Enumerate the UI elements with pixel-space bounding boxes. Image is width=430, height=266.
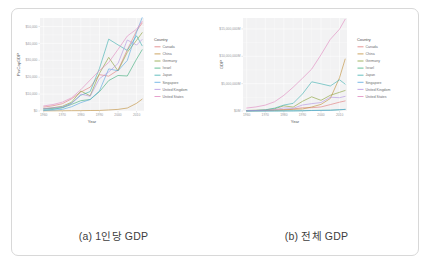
subfigure-a: $0$10,000$20,000$30,000$40,000$50,000196… — [12, 9, 215, 255]
y-axis-title: GDP — [219, 60, 224, 69]
chart-b-canvas: $0M$5,000,000M$10,000,000M$15,000,000M19… — [215, 13, 419, 131]
legend-label: Germany — [163, 59, 178, 63]
legend-label: Singapore — [366, 81, 382, 85]
legend-label: Germany — [366, 59, 381, 63]
legend-title: Country — [154, 37, 168, 42]
y-tick-label: $10,000 — [25, 92, 37, 96]
x-axis-title: Year — [291, 119, 300, 124]
legend-label: China — [366, 52, 375, 56]
x-tick-label: 1990 — [96, 113, 104, 117]
legend-label: United States — [163, 95, 184, 99]
x-tick-label: 1980 — [77, 113, 85, 117]
y-tick-label: $15,000,000M — [219, 27, 240, 31]
y-tick-label: $0M — [234, 109, 241, 113]
y-tick-label: $5,000,000M — [221, 82, 241, 86]
legend-label: Japan — [163, 73, 173, 77]
chart-a-canvas: $0$10,000$20,000$30,000$40,000$50,000196… — [12, 13, 216, 131]
x-axis-title: Year — [88, 119, 97, 124]
y-axis-title: PerCapGDP — [16, 53, 21, 76]
y-tick-label: $20,000 — [25, 75, 37, 79]
x-tick-label: 2010 — [133, 113, 141, 117]
legend-label: Israel — [163, 66, 172, 70]
legend-label: Canada — [163, 45, 175, 49]
caption-a: (a) 1인당 GDP — [12, 228, 215, 243]
figure-row: $0$10,000$20,000$30,000$40,000$50,000196… — [12, 9, 418, 255]
legend-title: Country — [357, 37, 371, 42]
legend-label: Japan — [366, 73, 376, 77]
legend-label: Israel — [366, 66, 375, 70]
x-tick-label: 1960 — [243, 113, 251, 117]
x-tick-label: 2000 — [317, 113, 325, 117]
chart-b: $0M$5,000,000M$10,000,000M$15,000,000M19… — [215, 13, 418, 231]
x-tick-label: 1980 — [280, 113, 288, 117]
x-tick-label: 2000 — [114, 113, 122, 117]
chart-a: $0$10,000$20,000$30,000$40,000$50,000196… — [12, 13, 215, 231]
y-tick-label: $50,000 — [25, 25, 37, 29]
y-tick-label: $0 — [34, 109, 38, 113]
x-tick-label: 1960 — [40, 113, 48, 117]
x-tick-label: 1990 — [299, 113, 307, 117]
y-tick-label: $30,000 — [25, 58, 37, 62]
plot-panel-a — [40, 18, 144, 111]
figure-page: $0$10,000$20,000$30,000$40,000$50,000196… — [0, 0, 430, 266]
y-tick-label: $10,000,000M — [219, 54, 240, 58]
legend-label: United Kingdom — [366, 88, 391, 92]
legend-label: China — [163, 52, 172, 56]
figure-frame: $0$10,000$20,000$30,000$40,000$50,000196… — [11, 8, 419, 256]
y-tick-label: $40,000 — [25, 42, 37, 46]
x-tick-label: 1970 — [59, 113, 67, 117]
x-tick-label: 2010 — [336, 113, 344, 117]
subfigure-b: $0M$5,000,000M$10,000,000M$15,000,000M19… — [215, 9, 418, 255]
x-tick-label: 1970 — [262, 113, 270, 117]
legend-label: United Kingdom — [163, 88, 188, 92]
legend-label: Singapore — [163, 81, 179, 85]
legend-label: Canada — [366, 45, 378, 49]
legend-label: United States — [366, 95, 387, 99]
caption-b: (b) 전체 GDP — [215, 228, 418, 243]
